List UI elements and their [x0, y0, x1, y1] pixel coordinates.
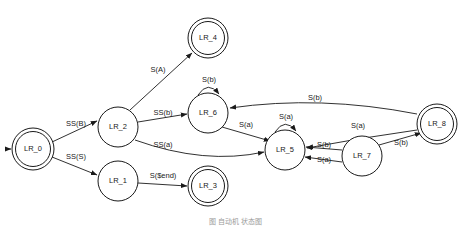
edge-lr_2-to-lr_4 [130, 53, 192, 110]
edge-label: S(A) [151, 65, 167, 74]
state-node-lr_1[interactable]: LR_1 [98, 161, 138, 201]
edge-label: SS(a) [153, 140, 173, 149]
state-label: LR_2 [109, 122, 127, 131]
edge-lr_6-to-lr_5 [222, 127, 270, 141]
state-node-lr_6[interactable]: LR_6 [188, 93, 228, 133]
state-label: LR_3 [199, 181, 217, 190]
state-node-lr_2[interactable]: LR_2 [98, 107, 138, 147]
edge-label: S(b) [308, 93, 323, 102]
edge-label: S(a) [317, 155, 332, 164]
state-label: LR_6 [199, 108, 217, 117]
edge-label: SS(B) [66, 119, 87, 128]
edge-label: S(a) [351, 121, 366, 130]
figure-caption: 图 自动机 状态图 [0, 216, 471, 226]
state-node-lr_8[interactable]: LR_8 [417, 104, 457, 144]
state-label: LR_5 [276, 145, 294, 154]
state-node-lr_7[interactable]: LR_7 [342, 136, 382, 176]
state-label: LR_0 [24, 144, 42, 153]
edge-label: S(a) [239, 120, 254, 129]
edge-lr_1-to-lr_3 [138, 183, 187, 186]
state-machine-diagram: LR_0LR_1LR_2LR_3LR_4LR_5LR_6LR_7LR_8 SS(… [0, 0, 471, 226]
state-node-lr_0[interactable]: LR_0 [12, 128, 54, 170]
state-node-lr_4[interactable]: LR_4 [188, 18, 228, 58]
edge-lr_8-to-lr_6 [230, 103, 417, 114]
edge-label: SS(b) [153, 108, 173, 117]
state-label: LR_8 [428, 119, 446, 128]
state-node-lr_3[interactable]: LR_3 [188, 166, 228, 206]
edge-label: S(b) [394, 138, 409, 147]
edge-label: S(b) [202, 75, 217, 84]
edge-label: S(b) [317, 140, 332, 149]
edge-label: S($end) [150, 171, 177, 180]
state-node-lr_5[interactable]: LR_5 [265, 130, 305, 170]
state-label: LR_1 [109, 176, 127, 185]
state-label: LR_4 [199, 33, 217, 42]
state-label: LR_7 [353, 151, 371, 160]
nodes-layer: LR_0LR_1LR_2LR_3LR_4LR_5LR_6LR_7LR_8 [12, 18, 457, 206]
edge-label: SS(S) [66, 152, 87, 161]
edge-label: S(a) [279, 112, 294, 121]
diagram-canvas: LR_0LR_1LR_2LR_3LR_4LR_5LR_6LR_7LR_8 SS(… [0, 0, 471, 226]
